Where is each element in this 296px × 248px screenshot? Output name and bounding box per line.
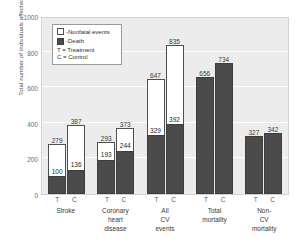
category-label-line: Total [190,206,240,215]
bar-pair: 327342 [239,18,288,194]
bar-total-label: 656 [199,70,210,77]
y-tick-label: 800 [14,49,38,56]
arm-labels: TC [190,196,240,203]
bar-group: 656734 [190,18,239,194]
bar-total-label: 293 [101,135,112,142]
legend: -Nonfatal events-DeathT = TreatmentC = C… [52,24,122,65]
bar-c[interactable]: 734 [215,63,233,194]
death-segment [48,176,66,194]
bar-death-label: 136 [70,161,82,168]
bar-chart: Total number of individuals affected 020… [0,0,296,248]
bar-pair: 656734 [190,18,239,194]
legend-note: C = Control [57,54,118,60]
y-axis-tick-labels: 02004006008001000 [14,0,38,248]
category-label-line: heart [91,215,141,224]
arm-label-c: C [219,196,227,203]
bar-death-label: 392 [169,116,181,123]
arm-label-c: C [169,196,177,203]
category-label: Stroke [41,206,91,215]
bar-t[interactable]: 656 [196,77,214,194]
bar-c[interactable]: 835392 [166,45,184,194]
category-label-line: events [140,224,190,233]
y-tick-label: 200 [14,156,38,163]
bar-t[interactable]: 293193 [97,142,115,194]
arm-label-t: T [103,196,111,203]
death-segment [116,151,134,194]
bar-death-label: 193 [100,151,112,158]
bar-total-label: 387 [71,118,82,125]
category-label-line: Non- [239,206,289,215]
x-axis-group: TCCoronaryheartdisease [91,196,141,233]
arm-label-t: T [53,196,61,203]
category-label: AllCVevents [140,206,190,233]
arm-labels: TC [140,196,190,203]
legend-swatch-filled [57,38,64,45]
y-tick-label: 600 [14,85,38,92]
bar-group: 327342 [239,18,288,194]
bar-total-label: 342 [267,126,278,133]
arm-labels: TC [91,196,141,203]
legend-label: -Death [66,38,84,44]
bar-t[interactable]: 279100 [48,144,66,194]
bar-c[interactable]: 342 [264,133,282,194]
bar-group: 647329835392 [140,18,189,194]
y-tick-label: 1000 [14,14,38,21]
y-tick-label: 400 [14,120,38,127]
bar-total-label: 279 [52,137,63,144]
death-segment [67,170,85,194]
category-label-line: mortality [239,224,289,233]
death-segment [166,124,184,194]
category-label: Non-CVmortality [239,206,289,233]
category-label: Coronaryheartdisease [91,206,141,233]
category-label-line: mortality [190,215,240,224]
bar-t[interactable]: 327 [245,136,263,194]
arm-label-t: T [202,196,210,203]
bar-c[interactable]: 387136 [67,125,85,194]
legend-note: T = Treatment [57,47,118,53]
legend-label: -Nonfatal events [66,29,110,35]
legend-item: -Nonfatal events [57,28,118,35]
arm-label-t: T [152,196,160,203]
category-label-line: CV [239,215,289,224]
death-segment [147,135,165,194]
bar-total-label: 327 [248,129,259,136]
category-label-line: All [140,206,190,215]
x-axis-group: TCStroke [41,196,91,233]
arm-labels: TC [41,196,91,203]
y-tick-label: 0 [14,192,38,199]
arm-label-t: T [252,196,260,203]
category-label-line: disease [91,224,141,233]
x-axis-group: TCTotalmortality [190,196,240,233]
gridline [42,15,288,16]
category-label-line: Coronary [91,206,141,215]
bar-pair: 647329835392 [140,18,189,194]
bar-death-label: 244 [119,142,131,149]
bar-total-label: 373 [120,121,131,128]
bar-death-label: 100 [51,168,63,175]
bar-total-label: 647 [150,72,161,79]
bar-total-label: 835 [169,38,180,45]
category-label: Totalmortality [190,206,240,224]
legend-item: -Death [57,38,118,45]
arm-label-c: C [70,196,78,203]
arm-label-c: C [269,196,277,203]
bar-total-label: 734 [218,56,229,63]
x-axis-group: TCAllCVevents [140,196,190,233]
arm-label-c: C [120,196,128,203]
category-label-line: CV [140,215,190,224]
death-segment [97,160,115,194]
x-axis-labels: TCStrokeTCCoronaryheartdiseaseTCAllCVeve… [41,196,289,233]
bar-t[interactable]: 647329 [147,79,165,194]
arm-labels: TC [239,196,289,203]
bar-c[interactable]: 373244 [116,128,134,194]
legend-swatch-open [57,28,64,35]
bar-death-label: 329 [150,127,162,134]
category-label-line: Stroke [41,206,91,215]
x-axis-group: TCNon-CVmortality [239,196,289,233]
